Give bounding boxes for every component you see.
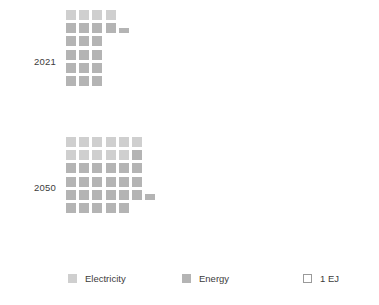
waffle-cell-energy [79, 177, 89, 187]
waffle-cell-partial [145, 194, 155, 199]
waffle-cell-energy [66, 163, 76, 173]
waffle-cell-energy [79, 190, 89, 200]
waffle-cell-electricity [79, 150, 89, 160]
waffle-grid-2050 [66, 137, 158, 216]
chart-legend: Electricity Energy 1 EJ [0, 268, 379, 292]
legend-label-electricity: Electricity [85, 273, 126, 284]
waffle-cell-energy [119, 190, 129, 200]
waffle-cell-energy [119, 163, 129, 173]
waffle-cell-energy [66, 190, 76, 200]
waffle-cell-energy [119, 177, 129, 187]
waffle-cell-energy [132, 190, 142, 200]
waffle-cell-electricity [79, 137, 89, 147]
waffle-cell-energy [92, 163, 102, 173]
waffle-cell-energy [66, 177, 76, 187]
waffle-cell-energy [79, 163, 89, 173]
waffle-cell-energy [92, 190, 102, 200]
waffle-cell-energy [106, 190, 116, 200]
waffle-cell-energy [106, 203, 116, 213]
waffle-cell-electricity [106, 150, 116, 160]
waffle-cell-energy [92, 177, 102, 187]
waffle-cell-energy [79, 203, 89, 213]
waffle-cell-electricity [119, 150, 129, 160]
legend-swatch-electricity [68, 274, 77, 283]
waffle-cell-energy [66, 203, 76, 213]
legend-item-electricity[interactable]: Electricity [68, 268, 126, 288]
year-label-2050: 2050 [10, 182, 56, 193]
waffle-cell-electricity [132, 137, 142, 147]
waffle-cell-energy [106, 163, 116, 173]
waffle-cell-electricity [66, 137, 76, 147]
legend-swatch-energy [182, 274, 191, 283]
legend-item-unit[interactable]: 1 EJ [303, 268, 339, 288]
waffle-cell-electricity [106, 137, 116, 147]
waffle-chart: 2021 2050 Electricity Energy 1 EJ [0, 0, 379, 305]
legend-item-energy[interactable]: Energy [182, 268, 229, 288]
waffle-cell-energy [132, 163, 142, 173]
waffle-cell-energy [132, 177, 142, 187]
waffle-group-2050: 2050 [0, 0, 379, 260]
waffle-cell-energy [92, 203, 102, 213]
legend-label-energy: Energy [199, 273, 229, 284]
waffle-cell-energy [119, 203, 129, 213]
legend-swatch-unit [303, 274, 312, 283]
legend-label-unit: 1 EJ [320, 273, 339, 284]
waffle-cell-electricity [92, 137, 102, 147]
waffle-cell-energy [106, 177, 116, 187]
waffle-cell-electricity [66, 150, 76, 160]
waffle-cell-electricity [119, 137, 129, 147]
waffle-cell-electricity [92, 150, 102, 160]
waffle-cell-energy [132, 150, 142, 160]
